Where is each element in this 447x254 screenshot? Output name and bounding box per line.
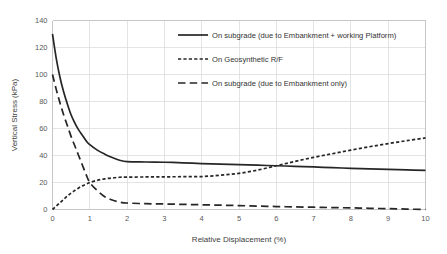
x-tick-label: 4 <box>200 214 204 223</box>
legend-label-1: On subgrade (due to Embankment + working… <box>212 31 397 40</box>
y-tick-label: 0 <box>43 205 47 214</box>
x-tick-label: 8 <box>349 214 353 223</box>
x-tick-label: 7 <box>312 214 316 223</box>
x-tick-label: 2 <box>125 214 129 223</box>
chart-plot: 020406080100120140 012345678910 On subgr… <box>0 0 447 254</box>
x-axis-title: Relative Displacement (%) <box>192 235 287 244</box>
x-tick-labels-group: 012345678910 <box>50 214 429 223</box>
y-tick-label: 60 <box>39 124 47 133</box>
x-tick-label: 5 <box>237 214 241 223</box>
y-tick-label: 140 <box>35 16 48 25</box>
chart-container: 020406080100120140 012345678910 On subgr… <box>0 0 447 254</box>
y-tick-labels-group: 020406080100120140 <box>35 16 48 214</box>
legend-label-2: On Geosynthetic R/F <box>212 55 283 64</box>
x-tick-label: 9 <box>386 214 390 223</box>
y-tick-label: 40 <box>39 151 47 160</box>
y-tick-label: 120 <box>35 43 48 52</box>
y-tick-label: 80 <box>39 97 47 106</box>
x-tick-label: 6 <box>274 214 278 223</box>
legend-label-3: On subgrade (due to Embankment only) <box>212 79 348 88</box>
x-tick-label: 1 <box>88 214 92 223</box>
x-tick-label: 0 <box>50 214 54 223</box>
y-tick-label: 100 <box>35 70 48 79</box>
gridlines-group <box>53 21 426 210</box>
x-tick-label: 3 <box>162 214 166 223</box>
y-tick-label: 20 <box>39 178 47 187</box>
legend-group: On subgrade (due to Embankment + working… <box>178 31 397 88</box>
y-axis-title: Vertical Stress (kPa) <box>10 78 19 151</box>
x-tick-label: 10 <box>421 214 429 223</box>
